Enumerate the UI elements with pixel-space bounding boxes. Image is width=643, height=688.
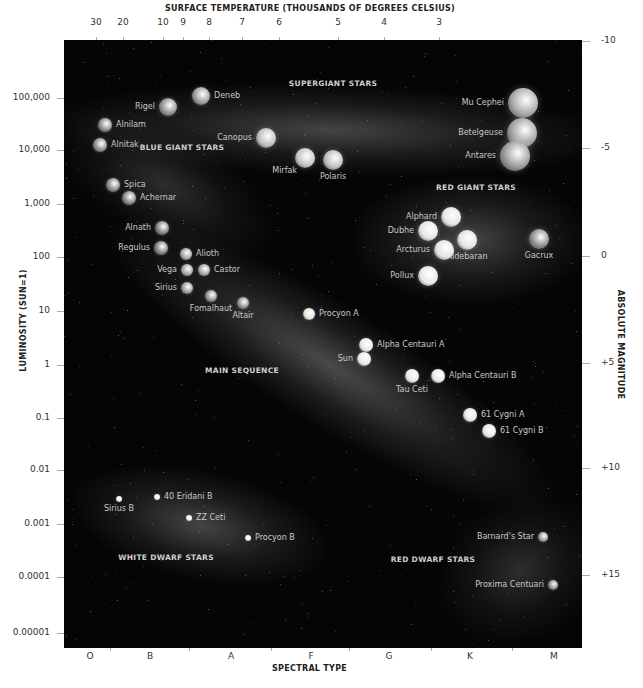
plot-area: SUPERGIANT STARSBLUE GIANT STARSRED GIAN… [64, 40, 582, 648]
background-speck [435, 429, 436, 430]
background-speck [250, 87, 251, 88]
background-speck [126, 587, 127, 588]
star-40-eridani-b [154, 494, 160, 500]
background-speck [473, 470, 474, 471]
left-tick-label: 1,000 [24, 198, 50, 208]
background-speck [64, 336, 65, 337]
background-speck [574, 201, 575, 202]
star-procyon-b [245, 535, 251, 541]
left-tick-label: 100 [33, 251, 50, 261]
background-speck [79, 302, 80, 303]
background-speck [427, 506, 428, 507]
background-speck [402, 123, 403, 124]
background-speck [100, 295, 101, 296]
background-speck [115, 514, 116, 515]
star-alpha-centauri-b [431, 369, 445, 383]
background-speck [571, 263, 572, 264]
background-speck [121, 464, 122, 465]
background-speck [382, 369, 383, 370]
background-speck [132, 150, 133, 151]
background-speck [472, 596, 473, 597]
background-speck [365, 130, 366, 131]
background-speck [356, 469, 357, 470]
background-speck [534, 404, 535, 405]
left-tick-label: 0.0001 [19, 571, 51, 581]
star-arcturus [434, 240, 454, 260]
background-speck [314, 46, 315, 47]
background-speck [538, 158, 539, 159]
background-speck [574, 436, 575, 437]
bottom-axis-title: SPECTRAL TYPE [272, 664, 347, 673]
background-speck [461, 340, 462, 341]
background-speck [76, 545, 77, 546]
background-speck [554, 528, 555, 529]
background-speck [278, 230, 279, 231]
background-speck [258, 351, 259, 352]
background-speck [463, 426, 464, 427]
background-speck [430, 312, 431, 313]
star-rigel [159, 98, 177, 116]
background-speck [519, 301, 520, 302]
background-speck [141, 259, 142, 260]
background-speck [478, 122, 479, 123]
background-speck [579, 556, 580, 557]
background-speck [576, 331, 577, 332]
star-sun [357, 352, 371, 366]
background-speck [119, 78, 120, 79]
star-label-rigel: Rigel [135, 102, 155, 111]
background-speck [105, 603, 106, 604]
background-speck [581, 49, 582, 50]
background-speck [481, 120, 482, 121]
background-speck [78, 169, 79, 170]
background-speck [147, 600, 148, 601]
background-speck [72, 509, 73, 510]
background-speck [473, 474, 474, 475]
background-speck [223, 249, 224, 250]
background-speck [285, 619, 286, 620]
background-speck [477, 247, 478, 248]
background-speck [415, 605, 416, 606]
background-speck [269, 551, 270, 552]
spectral-type-label: A [226, 651, 236, 661]
background-speck [113, 398, 114, 399]
region-label-red-giant-stars: RED GIANT STARS [436, 183, 516, 192]
background-speck [332, 263, 333, 264]
star-label-procyon-b: Procyon B [255, 533, 295, 542]
background-speck [312, 265, 313, 266]
background-speck [328, 47, 329, 48]
background-speck [240, 104, 241, 105]
background-speck [190, 612, 191, 613]
background-speck [540, 99, 541, 100]
background-speck [183, 220, 184, 221]
region-label-white-dwarf-stars: WHITE DWARF STARS [118, 553, 214, 562]
star-label-arcturus: Arcturus [396, 245, 430, 254]
background-speck [517, 172, 518, 173]
background-speck [263, 523, 264, 524]
background-speck [413, 76, 414, 77]
background-speck [310, 481, 311, 482]
background-speck [75, 639, 76, 640]
background-speck [569, 148, 570, 149]
background-speck [494, 143, 495, 144]
background-speck [462, 444, 463, 445]
background-speck [431, 509, 432, 510]
background-speck [101, 175, 102, 176]
star-label-alphard: Alphard [406, 212, 437, 221]
top-tick-label: 8 [203, 17, 215, 27]
background-speck [325, 415, 326, 416]
background-speck [425, 297, 426, 298]
background-speck [348, 581, 349, 582]
background-speck [401, 176, 402, 177]
background-speck [76, 237, 77, 238]
star-label-61-cygni-a: 61 Cygni A [481, 410, 524, 419]
background-speck [330, 590, 331, 591]
background-speck [68, 293, 69, 294]
background-speck [181, 242, 182, 243]
background-speck [305, 134, 306, 135]
background-speck [355, 220, 356, 221]
top-tick-label: 3 [433, 17, 445, 27]
background-speck [106, 53, 107, 54]
right-tick-label: 0 [601, 250, 607, 260]
star-label-alnilam: Alnilam [116, 120, 146, 129]
background-speck [197, 417, 198, 418]
